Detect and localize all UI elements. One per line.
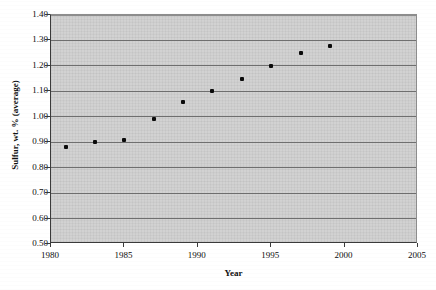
x-axis-tick-mark — [50, 243, 51, 247]
data-point — [240, 77, 244, 81]
x-axis-tick-label: 1995 — [245, 249, 295, 261]
data-point — [299, 51, 303, 55]
y-axis-tick-mark — [45, 39, 50, 40]
x-axis-tick-mark — [344, 243, 345, 247]
data-point — [328, 44, 332, 48]
y-axis-tick-label: 1.20 — [18, 60, 48, 70]
gridline — [51, 218, 416, 219]
y-axis-tick-label: 0.60 — [18, 213, 48, 223]
data-point — [152, 117, 156, 121]
y-axis-tick-label: 1.10 — [18, 85, 48, 95]
y-axis-tick-label: 0.70 — [18, 187, 48, 197]
y-axis-tick-mark — [45, 167, 50, 168]
data-point — [93, 140, 97, 144]
gridline — [51, 193, 416, 194]
x-axis-tick-label: 1980 — [25, 249, 75, 261]
x-axis-tick-mark — [197, 243, 198, 247]
x-axis-tick-label: 1990 — [172, 249, 222, 261]
x-axis-tick-labels: 198019851990199520002005 — [0, 249, 436, 263]
x-axis-tick-label: 2005 — [392, 249, 436, 261]
x-axis-tick-mark — [417, 243, 418, 247]
gridline — [51, 116, 416, 117]
y-axis-tick-label: 0.90 — [18, 136, 48, 146]
y-axis-tick-mark — [45, 14, 50, 15]
y-axis-tick-label: 1.40 — [18, 9, 48, 19]
data-point — [64, 145, 68, 149]
gridline — [51, 65, 416, 66]
data-point — [122, 138, 126, 142]
y-axis-tick-mark — [45, 65, 50, 66]
data-point — [269, 64, 273, 68]
gridline — [51, 40, 416, 41]
x-axis-tick-mark — [123, 243, 124, 247]
y-axis-tick-mark — [45, 141, 50, 142]
y-axis-tick-label: 0.80 — [18, 162, 48, 172]
x-axis-title: Year — [50, 268, 417, 278]
x-axis-tick-mark — [270, 243, 271, 247]
y-axis-tick-mark — [45, 116, 50, 117]
y-axis-tick-mark — [45, 192, 50, 193]
y-axis-tick-mark — [45, 218, 50, 219]
y-axis-tick-label: 1.30 — [18, 34, 48, 44]
x-axis-tick-label: 1985 — [98, 249, 148, 261]
plot-area — [50, 14, 417, 243]
gridline — [51, 91, 416, 92]
chart-figure: Sulfur, wt. % (average) 0.500.600.700.80… — [0, 0, 436, 290]
gridline — [51, 167, 416, 168]
gridline — [51, 142, 416, 143]
data-point — [210, 89, 214, 93]
y-axis-tick-mark — [45, 90, 50, 91]
x-axis-tick-label: 2000 — [319, 249, 369, 261]
data-point — [181, 100, 185, 104]
gridline — [51, 15, 416, 16]
y-axis-tick-label: 1.00 — [18, 111, 48, 121]
y-axis-tick-labels: 0.500.600.700.800.901.001.101.201.301.40 — [18, 0, 48, 290]
y-axis-tick-label: 0.50 — [18, 238, 48, 248]
